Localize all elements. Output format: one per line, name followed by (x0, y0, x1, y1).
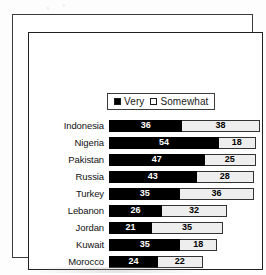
bar-segment-very: 43 (109, 171, 197, 183)
bar-track: 3638 (109, 120, 260, 132)
bar-value-label: 28 (220, 172, 230, 181)
chart-row: Nigeria5418 (45, 134, 266, 151)
bar-segment-somewhat: 32 (162, 205, 227, 217)
bar-value-label: 24 (128, 257, 138, 266)
bar-value-label: 25 (225, 155, 235, 164)
chart-row: Turkey3536 (45, 185, 266, 202)
row-label-lebanon: Lebanon (45, 206, 109, 216)
hollow-square-icon (150, 98, 157, 105)
bar-value-label: 47 (152, 155, 162, 164)
chart-row: Morocco2422 (45, 253, 266, 270)
bar-segment-very: 54 (109, 137, 219, 149)
bar-segment-very: 26 (109, 205, 162, 217)
bar-value-label: 36 (211, 189, 221, 198)
bar-value-label: 35 (140, 240, 150, 249)
bar-value-label: 32 (189, 206, 199, 215)
row-label-turkey: Turkey (45, 189, 109, 199)
bar-track: 5418 (109, 137, 256, 149)
row-label-russia: Russia (45, 172, 109, 182)
bar-segment-very: 36 (109, 120, 182, 132)
chart-outer-frame: Very Somewhat Indonesia3638Nigeria5418Pa… (12, 14, 253, 258)
bar-segment-somewhat: 28 (197, 171, 254, 183)
bar-segment-somewhat: 25 (205, 154, 256, 166)
bar-value-label: 18 (232, 138, 242, 147)
bar-segment-very: 35 (109, 239, 180, 251)
chart-row: Kuwait3518 (45, 236, 266, 253)
bar-value-label: 26 (130, 206, 140, 215)
legend-item-very: Very (114, 96, 144, 107)
legend-label-very: Very (124, 96, 144, 107)
bar-segment-somewhat: 18 (219, 137, 256, 149)
chart-row: Pakistan4725 (45, 151, 266, 168)
chart-inner-frame: Very Somewhat Indonesia3638Nigeria5418Pa… (28, 32, 263, 270)
bar-value-label: 54 (159, 138, 169, 147)
chart-rows: Indonesia3638Nigeria5418Pakistan4725Russ… (45, 117, 266, 270)
bar-track: 2422 (109, 256, 203, 268)
legend-label-somewhat: Somewhat (160, 96, 208, 107)
bar-value-label: 35 (140, 189, 150, 198)
bar-value-label: 22 (175, 257, 185, 266)
bar-value-label: 38 (216, 121, 226, 130)
bar-track: 3518 (109, 239, 217, 251)
chart-row: Indonesia3638 (45, 117, 266, 134)
filled-square-icon (114, 98, 121, 105)
bar-segment-somewhat: 22 (158, 256, 203, 268)
bar-segment-very: 21 (109, 222, 152, 234)
chart-row: Russia4328 (45, 168, 266, 185)
row-label-indonesia: Indonesia (45, 121, 109, 131)
bar-segment-somewhat: 38 (182, 120, 259, 132)
scanned-page: Very Somewhat Indonesia3638Nigeria5418Pa… (0, 0, 266, 275)
chart-row: Jordan2135 (45, 219, 266, 236)
bar-segment-somewhat: 35 (152, 222, 223, 234)
bar-value-label: 21 (125, 223, 135, 232)
row-label-morocco: Morocco (45, 257, 109, 267)
bar-track: 2632 (109, 205, 227, 217)
chart-legend: Very Somewhat (107, 93, 215, 110)
bar-segment-very: 24 (109, 256, 158, 268)
bar-track: 4328 (109, 171, 254, 183)
bar-track: 2135 (109, 222, 223, 234)
bar-value-label: 35 (182, 223, 192, 232)
stacked-bar-chart: Very Somewhat Indonesia3638Nigeria5418Pa… (45, 51, 266, 275)
bar-track: 4725 (109, 154, 256, 166)
bar-value-label: 43 (148, 172, 158, 181)
bar-value-label: 18 (193, 240, 203, 249)
row-label-kuwait: Kuwait (45, 240, 109, 250)
bar-value-label: 36 (141, 121, 151, 130)
bar-segment-very: 47 (109, 154, 205, 166)
bar-segment-somewhat: 18 (180, 239, 217, 251)
bar-segment-somewhat: 36 (180, 188, 253, 200)
row-label-pakistan: Pakistan (45, 155, 109, 165)
legend-item-somewhat: Somewhat (150, 96, 208, 107)
bar-segment-very: 35 (109, 188, 180, 200)
row-label-jordan: Jordan (45, 223, 109, 233)
chart-row: Lebanon2632 (45, 202, 266, 219)
row-label-nigeria: Nigeria (45, 138, 109, 148)
bar-track: 3536 (109, 188, 254, 200)
